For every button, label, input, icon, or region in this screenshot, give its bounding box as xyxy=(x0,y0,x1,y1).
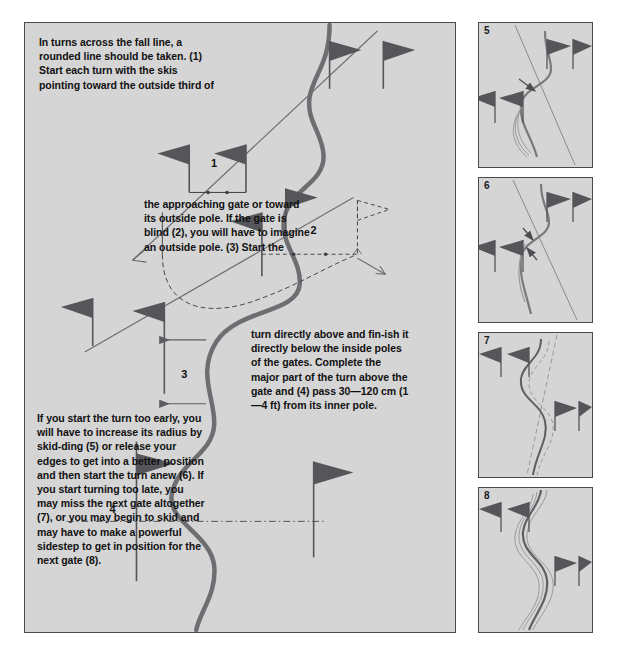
flag-icon xyxy=(555,401,577,417)
flag-icon xyxy=(479,502,501,518)
side-panel-7-number: 7 xyxy=(484,335,490,346)
gate-2-arc xyxy=(162,254,357,308)
flag-icon xyxy=(479,91,495,107)
side-panel-7-graphics xyxy=(479,333,592,477)
side-panel-5-graphics xyxy=(479,23,592,167)
gate-3-inner-flag-icon xyxy=(133,302,165,322)
gate-3-label: 3 xyxy=(181,368,187,380)
side-panel-column: 5 xyxy=(478,22,593,633)
gate-2-direction-arrow xyxy=(357,258,385,274)
flag-icon xyxy=(547,192,571,208)
flag-icon xyxy=(499,91,523,107)
text-block-c: turn directly above and fin-ish it direc… xyxy=(251,327,411,412)
side-panel-6: 6 xyxy=(478,177,593,323)
flag-icon xyxy=(314,462,354,485)
text-block-d: If you start the turn too early, you wil… xyxy=(37,411,205,567)
gate-2-third-marker-b xyxy=(324,252,328,256)
skid-trace-a xyxy=(518,107,531,153)
flags xyxy=(479,192,592,272)
flags xyxy=(479,347,592,431)
flag-icon xyxy=(547,39,571,55)
flag-icon xyxy=(579,556,592,572)
aim-line-upper-head-a xyxy=(133,250,145,260)
flag-icon xyxy=(507,502,529,518)
flag-icon xyxy=(61,298,93,318)
flag-icon xyxy=(579,401,592,417)
flag-icon xyxy=(479,347,501,363)
gate-1-inner-flag-icon xyxy=(214,145,246,165)
flag-icon xyxy=(479,240,495,256)
flag-icon xyxy=(383,41,415,61)
side-panel-5: 5 xyxy=(478,22,593,168)
flags xyxy=(479,39,592,123)
callout-arrow xyxy=(519,79,535,91)
gate-1: 1 xyxy=(157,145,246,195)
side-panel-7: 7 xyxy=(478,332,593,478)
gate-1-third-marker-b xyxy=(225,191,229,195)
gate-1-third-marker-a xyxy=(206,191,210,195)
aim-line-upper-head-b xyxy=(133,260,147,262)
gate-1-outer-flag-icon xyxy=(157,145,189,165)
ideal-line xyxy=(527,335,557,475)
flag-icon xyxy=(573,39,592,55)
side-panel-8-number: 8 xyxy=(484,490,490,501)
figure-page: 1 2 xyxy=(0,0,617,657)
side-panel-6-number: 6 xyxy=(484,180,490,191)
callout-arrow-a xyxy=(523,228,533,240)
callout-arrow-b xyxy=(527,248,537,260)
gate-3: 3 xyxy=(61,298,206,404)
side-panel-8-graphics xyxy=(479,488,592,632)
side-panel-5-number: 5 xyxy=(484,25,490,36)
gate-2-imaginary-flag-icon xyxy=(357,200,389,220)
main-diagram-panel: 1 2 xyxy=(24,22,456,633)
side-panel-8: 8 xyxy=(478,487,593,633)
text-block-a: In turns across the fall line, a rounded… xyxy=(39,35,221,92)
side-panel-6-graphics xyxy=(479,178,592,322)
gate-1-label: 1 xyxy=(211,157,217,169)
flag-icon xyxy=(499,240,523,256)
flag-icon xyxy=(573,192,592,208)
flag-icon xyxy=(330,41,362,61)
flag-icon xyxy=(507,347,529,363)
flag-icon xyxy=(555,556,577,572)
text-block-b: the approaching gate or toward its outsi… xyxy=(144,197,312,254)
